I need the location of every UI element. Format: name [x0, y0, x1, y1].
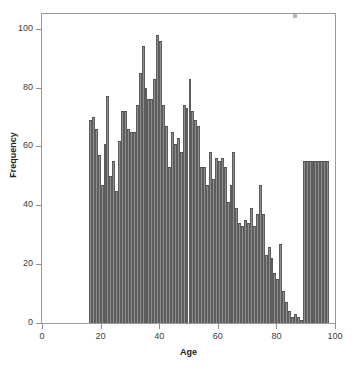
histogram-bars-container — [42, 14, 335, 323]
image-artifact-speck-icon — [293, 14, 297, 18]
y-axis-tick-label: 40 — [5, 200, 33, 209]
y-axis-tick-label: 20 — [5, 259, 33, 268]
y-axis-tick-mark — [36, 29, 41, 30]
y-axis-tick-mark — [36, 146, 41, 147]
x-axis-tick-mark — [101, 324, 102, 329]
x-axis-tick-mark — [335, 324, 336, 329]
x-axis-tick-mark — [159, 324, 160, 329]
histogram-bar — [326, 161, 329, 323]
x-axis-tick-label: 60 — [205, 331, 231, 341]
y-axis-title: Frequency — [8, 120, 18, 190]
y-axis-tick-mark — [36, 88, 41, 89]
x-axis-line — [41, 323, 336, 324]
y-axis-tick-label: 100 — [5, 24, 33, 33]
x-axis-tick-mark — [218, 324, 219, 329]
x-axis-tick-label: 0 — [29, 331, 55, 341]
x-axis-tick-label: 20 — [88, 331, 114, 341]
x-axis-tick-label: 80 — [263, 331, 289, 341]
y-axis-tick-mark — [36, 323, 41, 324]
y-axis-tick-label: 80 — [5, 83, 33, 92]
y-axis-tick-mark — [36, 264, 41, 265]
x-axis-tick-mark — [276, 324, 277, 329]
y-axis-tick-label: 0 — [5, 318, 33, 327]
x-axis-tick-label: 40 — [146, 331, 172, 341]
x-axis-tick-mark — [42, 324, 43, 329]
histogram-figure: 020406080100 020406080100 Frequency Age — [0, 0, 353, 368]
y-axis-tick-mark — [36, 205, 41, 206]
x-axis-title: Age — [41, 347, 336, 357]
y-axis-line — [41, 13, 42, 324]
x-axis-tick-label: 100 — [322, 331, 348, 341]
